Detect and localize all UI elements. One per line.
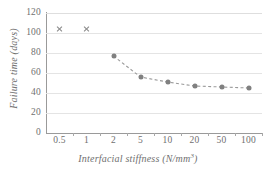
x-tick-label: 2 [111, 136, 116, 146]
x-tick-label: 10 [163, 136, 173, 146]
y-tick-label: 120 [0, 8, 41, 18]
y-tick-label: 60 [0, 68, 41, 78]
x-tick-label: 20 [190, 136, 200, 146]
x-tick-mark [154, 133, 155, 136]
x-axis-title-base: Interfacial stiffness (N/mm [78, 153, 190, 164]
data-marker-dot [165, 80, 170, 85]
gridline [46, 113, 262, 114]
x-tick-label: 5 [138, 136, 143, 146]
y-axis-title: Failure time (days) [8, 9, 19, 129]
y-tick-label: 40 [0, 88, 41, 98]
x-tick-mark [208, 133, 209, 136]
x-tick-label: 1 [84, 136, 89, 146]
data-marker-dot [246, 86, 251, 91]
x-tick-mark [262, 133, 263, 136]
failure-time-chart: 020406080100120 0.5125102050100 Interfac… [0, 0, 276, 171]
data-marker-dot [219, 85, 224, 90]
x-tick-label: 100 [241, 136, 256, 146]
x-tick-mark [73, 133, 74, 136]
data-marker-x [56, 26, 63, 33]
x-tick-mark [100, 133, 101, 136]
x-tick-label: 0.5 [53, 136, 65, 146]
gridline [46, 73, 262, 74]
y-tick-label: 100 [0, 28, 41, 38]
data-marker-dot [111, 54, 116, 59]
gridline [46, 93, 262, 94]
gridline [46, 53, 262, 54]
data-marker-x [83, 26, 90, 33]
x-tick-mark [181, 133, 182, 136]
gridline [46, 13, 262, 14]
y-tick-label: 20 [0, 108, 41, 118]
data-marker-dot [138, 75, 143, 80]
x-tick-mark [127, 133, 128, 136]
x-axis-title-tail: ) [194, 153, 198, 164]
data-marker-dot [192, 84, 197, 89]
x-tick-label: 50 [217, 136, 227, 146]
x-axis-title: Interfacial stiffness (N/mm3) [0, 152, 276, 164]
x-tick-mark [235, 133, 236, 136]
gridline [46, 33, 262, 34]
y-tick-label: 0 [0, 128, 41, 138]
y-tick-label: 80 [0, 48, 41, 58]
